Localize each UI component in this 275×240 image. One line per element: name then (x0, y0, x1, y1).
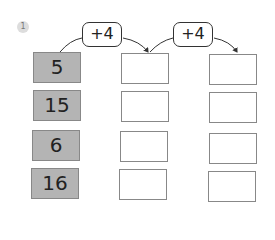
answer-box-step1[interactable] (121, 91, 169, 122)
answer-box-step1[interactable] (119, 169, 167, 200)
start-value-box: 16 (31, 168, 79, 199)
operator-bubble-2: +4 (173, 22, 213, 47)
answer-box-step2[interactable] (209, 54, 257, 85)
operator-bubble-1: +4 (82, 22, 122, 47)
start-value-box: 15 (33, 90, 81, 121)
start-value-box: 5 (33, 52, 81, 83)
answer-box-step2[interactable] (208, 171, 256, 202)
answer-box-step1[interactable] (120, 131, 168, 162)
answer-box-step1[interactable] (121, 53, 169, 84)
answer-box-step2[interactable] (209, 92, 257, 123)
exercise-number-badge: 1 (17, 21, 29, 33)
answer-box-step2[interactable] (209, 133, 257, 164)
start-value-box: 6 (32, 130, 80, 161)
